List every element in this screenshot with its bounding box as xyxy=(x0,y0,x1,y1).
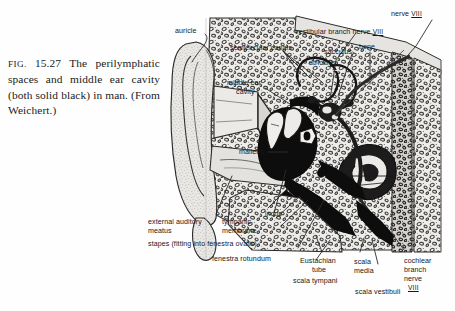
label-eustachian-tube-line2: tube xyxy=(312,266,326,274)
leader-sacculus-utriculus xyxy=(338,54,352,96)
label-utriculus: utriculus xyxy=(309,59,336,67)
label-cochlear-branch-line2: branch xyxy=(404,266,426,274)
label-cochlear-branch-line1: cochlear xyxy=(404,257,431,265)
label-eustachian-tube-line1: Eustachian xyxy=(300,257,336,265)
label-vestibular-branch-nerve-text: vestibular branch nerve xyxy=(295,28,371,36)
label-scala-vestibuli: scala vestibuli xyxy=(355,288,400,296)
leader-lines xyxy=(0,0,455,311)
label-tympanic-membrane-line2: membrane xyxy=(222,227,257,235)
figure-caption: FIG. 15.27 The perilymphatic spaces and … xyxy=(8,56,160,119)
label-external-auditory-meatus-line1: external auditory xyxy=(148,218,202,226)
label-external-auditory-meatus-line2: meatus xyxy=(148,227,172,235)
leader-auricle xyxy=(192,34,207,62)
label-scala-media-line2: media xyxy=(354,267,374,275)
label-cochlear-branch-numeral: VIII xyxy=(408,284,419,292)
figure-number-prefix: FIG. xyxy=(8,59,27,69)
label-fenestra-rotundum: fenestra rotundum xyxy=(212,255,271,263)
label-incus: incus xyxy=(265,210,282,218)
figure-caption-text: The perilymphatic spaces and middle ear … xyxy=(8,57,160,116)
leader-nerve-viii xyxy=(402,20,432,62)
label-bone: bone xyxy=(359,43,375,51)
leader-stapes xyxy=(281,200,308,226)
label-scala-tympani: scala tympani xyxy=(293,277,337,285)
figure-root: FIG. 15.27 The perilymphatic spaces and … xyxy=(0,0,455,311)
leader-eustachian-tube xyxy=(316,236,322,252)
leader-external-auditory-meatus xyxy=(216,176,232,214)
figure-number: 15.27 xyxy=(35,57,61,69)
label-vestibular-branch-nerve: vestibular branch nerve VIII xyxy=(295,28,383,36)
leader-fenestra-rotundum xyxy=(298,200,324,248)
label-middle-ear-cavity-line1: middle ear xyxy=(227,79,261,87)
label-vestibular-nerve-numeral: VIII xyxy=(373,28,384,35)
leader-semicircular-2 xyxy=(283,51,310,78)
label-cochlear-branch-line3: nerve xyxy=(404,275,422,283)
label-nerve-numeral: VIII xyxy=(411,10,422,17)
leader-cochlear-branch xyxy=(394,236,404,250)
label-scala-media-line1: scala xyxy=(354,258,371,266)
label-sacculus: sacculus- xyxy=(324,48,355,56)
label-stapes: stapes (fitting into fenestra ovalis) xyxy=(148,240,257,248)
label-nerve-viii: nerve VIII xyxy=(391,10,422,18)
leader-incus xyxy=(268,188,288,208)
leader-scala-vestibuli xyxy=(372,240,378,264)
leader-scala-media xyxy=(360,238,364,252)
leader-middle-ear-cavity xyxy=(265,88,290,104)
label-semicircular-canals: semicircular canals xyxy=(230,44,292,52)
label-middle-ear-cavity-line2: cavity xyxy=(236,88,255,96)
label-nerve-text: nerve xyxy=(391,10,409,18)
label-auricle: auricle xyxy=(175,27,196,35)
label-malleus: malleus xyxy=(239,148,264,156)
label-tympanic-membrane-line1: tympanic xyxy=(222,218,251,226)
